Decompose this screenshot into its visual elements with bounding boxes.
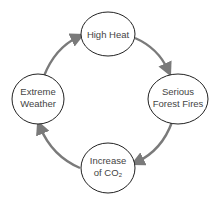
cycle-diagram: High Heat Serious Forest Fires Increase … — [0, 0, 215, 208]
node-serious-forest-fires: Serious Forest Fires — [148, 74, 208, 124]
node-increase-of-co2: Increase of CO₂ — [81, 143, 135, 193]
node-high-heat: High Heat — [81, 12, 135, 56]
node-label: Weather — [20, 98, 56, 109]
node-label: Serious — [162, 86, 194, 97]
node-label: Extreme — [20, 86, 55, 97]
node-extreme-weather: Extreme Weather — [12, 74, 64, 124]
node-label: High Heat — [87, 29, 130, 40]
arrow-co2-to-extreme-weather — [40, 127, 80, 168]
node-label: Increase — [90, 155, 126, 166]
arrow-high-heat-to-forest-fires — [135, 38, 168, 70]
node-label: Forest Fires — [153, 98, 204, 109]
arrow-extreme-weather-to-high-heat — [44, 37, 78, 76]
node-label: of CO₂ — [94, 167, 123, 178]
arrow-forest-fires-to-co2 — [137, 122, 172, 162]
